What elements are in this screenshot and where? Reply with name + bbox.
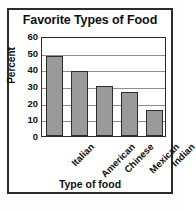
y-axis-tick-label: 0 (18, 132, 38, 142)
chart-figure: Favorite Types of Food Percent 605040302… (0, 0, 183, 211)
chart-title: Favorite Types of Food (7, 13, 173, 27)
y-axis-tick-label: 30 (18, 82, 38, 92)
bar-series (42, 38, 165, 136)
bar (71, 71, 88, 136)
bar (121, 92, 138, 136)
bar (96, 86, 113, 136)
y-axis-title: Percent (6, 38, 17, 94)
y-axis-tick-label: 10 (18, 115, 38, 125)
bar (46, 56, 63, 136)
bar (146, 110, 163, 136)
x-axis-title: Type of food (7, 178, 173, 190)
x-axis-tick-label: Italian (69, 141, 96, 168)
x-axis-tick-labels: ItalianAmericanChineseMexicanIndian (41, 137, 166, 179)
y-axis-tick-label: 20 (18, 99, 38, 109)
plot-area (41, 37, 166, 137)
y-axis-tick-label: 40 (18, 65, 38, 75)
y-axis-tick-labels: 6050403020100 (16, 37, 38, 137)
y-axis-tick-label: 50 (18, 49, 38, 59)
y-axis-tick-label: 60 (18, 32, 38, 42)
